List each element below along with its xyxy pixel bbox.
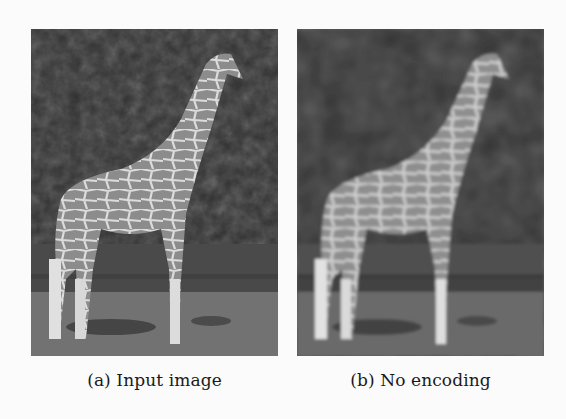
giraffe-photo-reconstructed-icon xyxy=(297,29,544,356)
subfigure-a-caption: (a) Input image xyxy=(31,370,278,390)
giraffe-photo-icon xyxy=(31,29,278,356)
subfigure-b-image xyxy=(297,29,544,356)
subfigure-b-caption: (b) No encoding xyxy=(297,370,544,390)
subfigure-a-image xyxy=(31,29,278,356)
